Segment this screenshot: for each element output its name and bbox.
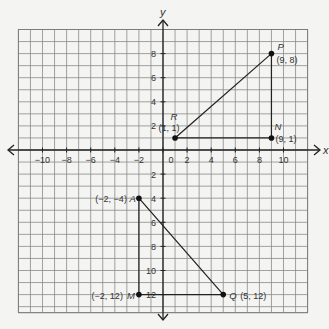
y-tick-label: 4 xyxy=(151,194,156,204)
x-tick-label: −2 xyxy=(134,155,144,165)
x-tick-label: −4 xyxy=(110,155,120,165)
point-name-label: M xyxy=(127,290,135,301)
point-name-label: Q xyxy=(229,290,237,301)
point-name-label: P xyxy=(277,41,284,52)
point-q xyxy=(220,292,226,298)
point-coord-label: (9, 1) xyxy=(275,134,296,144)
y-tick-label: 10 xyxy=(146,266,156,276)
y-tick-label: 8 xyxy=(151,49,156,59)
point-name-label: A xyxy=(129,193,136,204)
point-a xyxy=(136,195,142,201)
y-tick-label: 2 xyxy=(151,121,156,131)
coordinate-plane: xy −10−8−6−4−20246810864224681012 P(9, 8… xyxy=(0,0,329,329)
x-tick-label: −10 xyxy=(35,155,50,165)
x-tick-label: 8 xyxy=(257,155,262,165)
x-tick-label: 0 xyxy=(168,155,173,165)
y-tick-label: 6 xyxy=(151,73,156,83)
point-m xyxy=(136,292,142,298)
point-name-label: N xyxy=(274,121,281,132)
x-tick-label: 10 xyxy=(278,155,288,165)
y-tick-label: 4 xyxy=(151,97,156,107)
y-axis-label: y xyxy=(159,6,167,18)
point-coord-label: (−2, 12) xyxy=(92,291,123,301)
x-tick-label: 4 xyxy=(209,155,214,165)
point-r xyxy=(172,135,178,141)
x-axis-label: x xyxy=(322,144,329,156)
point-coord-label: (9, 8) xyxy=(276,55,297,65)
point-name-label: R xyxy=(171,111,178,122)
x-tick-label: 2 xyxy=(185,155,190,165)
point-coord-label: (1, 1) xyxy=(159,123,180,133)
x-tick-label: 6 xyxy=(233,155,238,165)
y-tick-label: 2 xyxy=(151,170,156,180)
x-tick-label: −8 xyxy=(61,155,71,165)
point-p xyxy=(269,51,275,57)
x-tick-label: −6 xyxy=(86,155,96,165)
y-tick-label: 8 xyxy=(151,242,156,252)
point-coord-label: (5, 12) xyxy=(240,291,266,301)
tick-labels: −10−8−6−4−20246810864224681012 xyxy=(35,49,289,300)
point-coord-label: (−2, −4) xyxy=(95,194,127,204)
point-n xyxy=(269,135,275,141)
y-tick-label: 6 xyxy=(151,218,156,228)
